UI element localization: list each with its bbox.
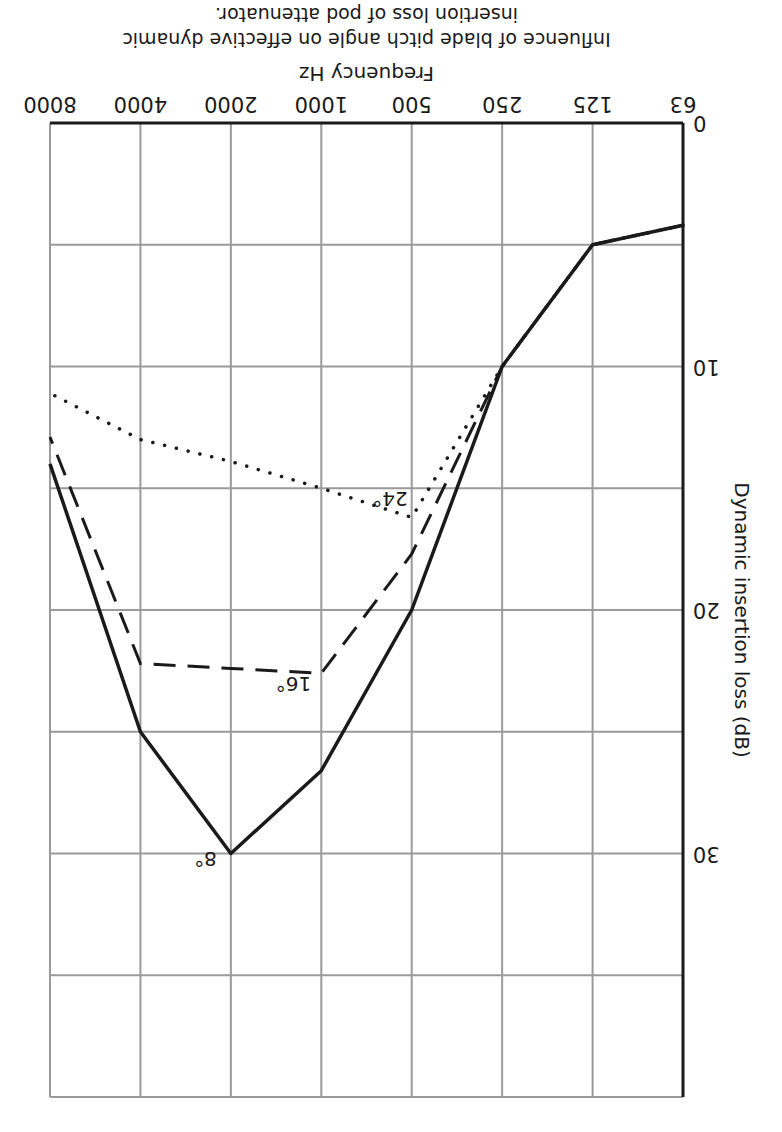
y-axis-label: Dynamic insertion loss (dB) [730,482,754,757]
y-tick-label: 30 [693,842,720,866]
chart-figure: 631252505001000200040008000 0102030 8°16… [0,0,782,1132]
series-line-solid [50,225,683,853]
x-tick-label: 1000 [295,92,348,116]
line-chart: 631252505001000200040008000 0102030 8°16… [0,0,782,1132]
series-line-dotted [50,225,683,517]
series-line-dashed [50,225,683,673]
x-tick-labels: 631252505001000200040008000 [23,92,696,116]
x-tick-label: 2000 [204,92,257,116]
x-tick-label: 250 [482,92,522,116]
x-tick-label: 4000 [114,92,167,116]
grid-lines [50,123,683,1097]
series-annotation: 24° [372,487,407,511]
y-tick-label: 20 [693,598,720,622]
x-tick-label: 125 [573,92,613,116]
y-tick-label: 10 [693,355,720,379]
x-axis-label: Frequency Hz [299,62,434,86]
x-tick-label: 8000 [23,92,76,116]
y-tick-label: 0 [693,111,706,135]
series-annotation: 8° [194,847,217,871]
x-tick-label: 500 [392,92,432,116]
chart-title-line-1: Influence of blade pitch angle on effect… [122,29,610,51]
series-annotations: 8°16°24° [194,487,408,871]
series-annotation: 16° [276,672,311,696]
chart-title-line-2: insertion loss of pod attenuator. [215,4,518,26]
y-tick-labels: 0102030 [693,111,720,866]
data-series [50,225,683,853]
